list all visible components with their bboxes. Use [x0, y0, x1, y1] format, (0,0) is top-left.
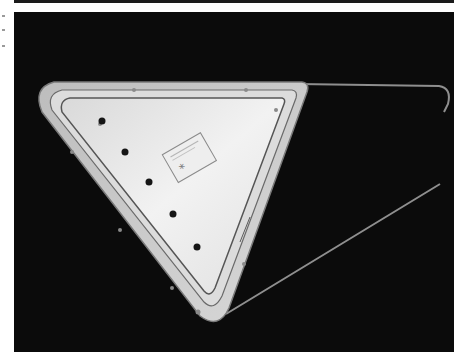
speck	[2, 15, 5, 17]
speck	[2, 45, 5, 47]
product-photo: *	[14, 12, 454, 352]
hole	[194, 244, 201, 251]
hole	[146, 179, 153, 186]
hole	[170, 211, 177, 218]
hole	[122, 149, 129, 156]
photo-illustration: *	[14, 12, 454, 352]
margin-specks	[2, 15, 6, 49]
top-border-strip	[14, 0, 454, 3]
speck	[2, 29, 5, 31]
hole	[99, 118, 106, 125]
